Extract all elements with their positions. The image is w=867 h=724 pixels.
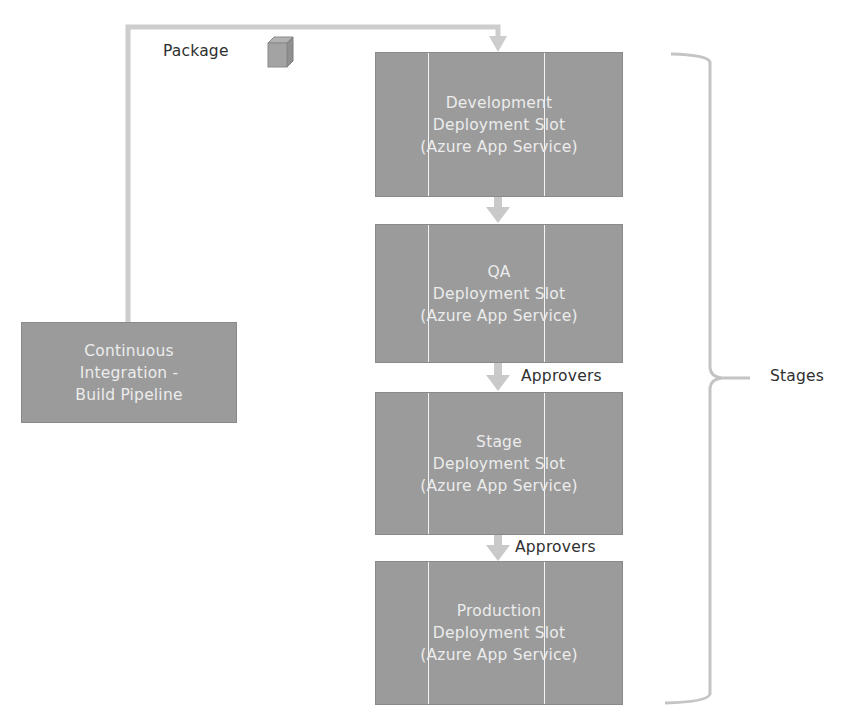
arrow-qa-to-stage: [486, 363, 510, 391]
stage-service: (Azure App Service): [420, 644, 577, 666]
stage-name: QA: [487, 261, 510, 283]
ci-line-3: Build Pipeline: [75, 384, 182, 406]
stage-slot: Deployment Slot: [433, 622, 565, 644]
approvers-label-qa-stage: Approvers: [521, 367, 602, 385]
arrow-dev-to-qa: [486, 197, 510, 223]
divider-line: [428, 225, 429, 362]
stage-box-qa: QA Deployment Slot (Azure App Service): [375, 224, 623, 363]
stage-name: Development: [446, 92, 553, 114]
stage-box-stage: Stage Deployment Slot (Azure App Service…: [375, 392, 623, 535]
stage-slot: Deployment Slot: [433, 453, 565, 475]
divider-line: [428, 393, 429, 534]
package-cube-icon: [266, 35, 294, 69]
stages-brace-label: Stages: [770, 367, 824, 385]
approvers-label-stage-production: Approvers: [515, 538, 596, 556]
stage-slot: Deployment Slot: [433, 114, 565, 136]
divider-line: [428, 562, 429, 704]
ci-line-1: Continuous: [84, 340, 174, 362]
stage-box-development: Development Deployment Slot (Azure App S…: [375, 52, 623, 197]
stage-service: (Azure App Service): [420, 136, 577, 158]
stage-box-production: Production Deployment Slot (Azure App Se…: [375, 561, 623, 705]
stage-slot: Deployment Slot: [433, 283, 565, 305]
package-label: Package: [163, 42, 229, 60]
stages-brace: [665, 54, 750, 703]
stage-name: Stage: [476, 431, 522, 453]
stage-name: Production: [457, 600, 541, 622]
stage-service: (Azure App Service): [420, 475, 577, 497]
ci-build-pipeline-box: Continuous Integration - Build Pipeline: [21, 322, 237, 423]
stage-service: (Azure App Service): [420, 305, 577, 327]
divider-line: [428, 53, 429, 196]
ci-line-2: Integration -: [80, 362, 179, 384]
arrow-stage-to-production: [486, 535, 510, 561]
